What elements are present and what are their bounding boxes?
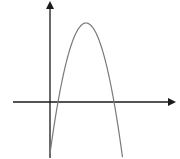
function-graph bbox=[0, 0, 180, 159]
parabola-curve bbox=[50, 23, 123, 157]
